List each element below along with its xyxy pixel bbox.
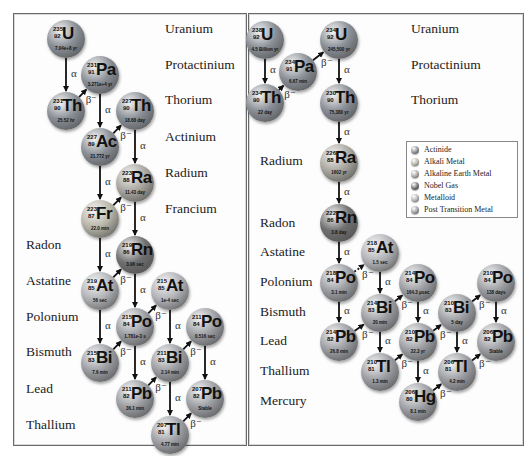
- nuclide-th-230: 23090Th75,380 yr: [320, 84, 358, 122]
- atomic-number: 91: [286, 66, 293, 72]
- nuclide-rn-222: 22286Rn3.8 day: [320, 204, 358, 242]
- element-symbol: Po: [335, 268, 356, 288]
- nuclide-hg-206: 20680Hg8.1 min: [399, 383, 437, 421]
- element-symbol: Rn: [131, 240, 153, 260]
- nuclide-bi-214: 21483Bi20 min: [361, 294, 399, 332]
- legend: Actinide Alkali Metal Alkaline Earth Met…: [406, 141, 518, 218]
- element-symbol: At: [376, 238, 393, 258]
- atomic-number: 83: [368, 307, 375, 313]
- element-symbol: Pb: [492, 327, 513, 347]
- element-symbol: Pa: [294, 57, 314, 77]
- nuclide-at-219: 21985At56 sec: [81, 272, 119, 310]
- nuclide-ra-223: 22388Ra11.43 day: [116, 164, 154, 202]
- half-life: 1.5 sec: [361, 260, 399, 265]
- half-life: Stable: [477, 349, 515, 354]
- half-life: 5 day: [438, 320, 476, 325]
- post-transition-dot-icon: [411, 206, 419, 214]
- nuclide-pa-234: 23491Pa6.67 min: [279, 53, 317, 91]
- atomic-number: 87: [88, 213, 95, 219]
- half-life: 3.8 day: [320, 230, 358, 235]
- nuclide-at-215: 21585At1e-4 sec: [151, 272, 189, 310]
- half-life: 11.43 day: [116, 190, 154, 195]
- legend-item-post-transition-metal: Post Transition Metal: [411, 204, 493, 216]
- nuclide-at-218: 21885At1.5 sec: [361, 234, 399, 272]
- atomic-number: 84: [193, 321, 200, 327]
- half-life: 20 min: [361, 320, 399, 325]
- atomic-number: 85: [158, 285, 165, 291]
- element-symbol: Hg: [414, 387, 436, 407]
- element-symbol: Pb: [131, 384, 152, 404]
- nuclide-po-215: 21584Po1.781e-3 s: [116, 308, 154, 346]
- atomic-number: 92: [54, 33, 61, 39]
- half-life: 1.3 min: [361, 379, 399, 384]
- element-symbol: Rn: [335, 208, 357, 228]
- half-life: 1e-4 sec: [151, 298, 189, 303]
- half-life: 18.68 day: [116, 118, 154, 123]
- element-symbol: Ra: [335, 148, 356, 168]
- half-life: 36.1 min: [116, 406, 154, 411]
- legend-item-alkali-metal: Alkali Metal: [411, 156, 465, 168]
- element-symbol: Ra: [131, 168, 152, 188]
- atomic-number: 90: [327, 97, 334, 103]
- element-symbol: Pb: [335, 327, 356, 347]
- nuclide-pa-231: 23191Pa3.271e+4 yr: [81, 56, 119, 94]
- half-life: 245,500 yr: [320, 47, 358, 52]
- atomic-number: 89: [88, 141, 95, 147]
- atomic-number: 85: [368, 247, 375, 253]
- half-life: Stable: [186, 406, 224, 411]
- atomic-number: 84: [123, 321, 130, 327]
- half-life: 22.0 min: [81, 226, 119, 231]
- alkaline-earth-dot-icon: [411, 170, 419, 178]
- nuclide-po-214: 21484Po164.3 μsec: [399, 264, 437, 302]
- half-life: 4.2 min: [438, 379, 476, 384]
- atomic-number: 92: [253, 34, 260, 40]
- half-life: 21.772 yr: [81, 154, 119, 159]
- half-life: 22 day: [246, 110, 284, 115]
- nuclide-atoms: 23592U7.04e+8 yr23191Pa3.271e+4 yr23190T…: [0, 0, 527, 456]
- nuclide-pb-214: 21482Pb26.8 min: [320, 323, 358, 361]
- atomic-number: 81: [158, 429, 165, 435]
- atomic-number: 90: [253, 97, 260, 103]
- half-life: 3.96 sec: [116, 262, 154, 267]
- element-symbol: At: [96, 276, 113, 296]
- element-symbol: At: [166, 276, 183, 296]
- element-symbol: Th: [261, 88, 281, 108]
- legend-item-actinide: Actinide: [411, 144, 452, 156]
- nuclide-u-238: 23892U4.5 Billion yr: [246, 21, 284, 59]
- nuclide-tl-207: 20781Tl4.77 min: [151, 416, 189, 454]
- nuclide-ra-226: 22688Ra1602 yr: [320, 144, 358, 182]
- element-symbol: Ac: [96, 132, 117, 152]
- atomic-number: 82: [406, 336, 413, 342]
- element-symbol: Tl: [166, 420, 180, 440]
- legend-item-metalloid: Metalloid: [411, 192, 455, 204]
- nuclide-th-227: 22790Th18.68 day: [116, 92, 154, 130]
- nuclide-pb-211: 21182Pb36.1 min: [116, 380, 154, 418]
- nuclide-u-235: 23592U7.04e+8 yr: [47, 20, 85, 58]
- element-symbol: Pb: [414, 327, 435, 347]
- atomic-number: 88: [327, 157, 334, 163]
- nuclide-po-210: 21084Po138 days: [477, 264, 515, 302]
- atomic-number: 82: [123, 393, 130, 399]
- atomic-number: 84: [327, 277, 334, 283]
- half-life: 7.6 min: [81, 370, 119, 375]
- half-life: 7.04e+8 yr: [47, 46, 85, 51]
- legend-item-noble-gas: Nobel Gas: [411, 180, 458, 192]
- atomic-number: 83: [445, 307, 452, 313]
- alkali-metal-dot-icon: [411, 158, 419, 166]
- half-life: 138 days: [477, 290, 515, 295]
- half-life: 3.271e+4 yr: [81, 82, 119, 87]
- half-life: 26.8 min: [320, 349, 358, 354]
- element-symbol: Bi: [453, 298, 469, 318]
- atomic-number: 90: [54, 105, 61, 111]
- atomic-number: 82: [327, 336, 334, 342]
- element-symbol: Tl: [376, 357, 390, 377]
- half-life: 164.3 μsec: [399, 290, 437, 295]
- nuclide-u-234: 23492U245,500 yr: [320, 21, 358, 59]
- metalloid-dot-icon: [411, 194, 419, 202]
- element-symbol: Po: [492, 268, 513, 288]
- atomic-number: 91: [88, 69, 95, 75]
- element-symbol: Po: [414, 268, 435, 288]
- atomic-number: 84: [406, 277, 413, 283]
- nuclide-pb-206: 20682PbStable: [477, 323, 515, 361]
- half-life: 56 sec: [81, 298, 119, 303]
